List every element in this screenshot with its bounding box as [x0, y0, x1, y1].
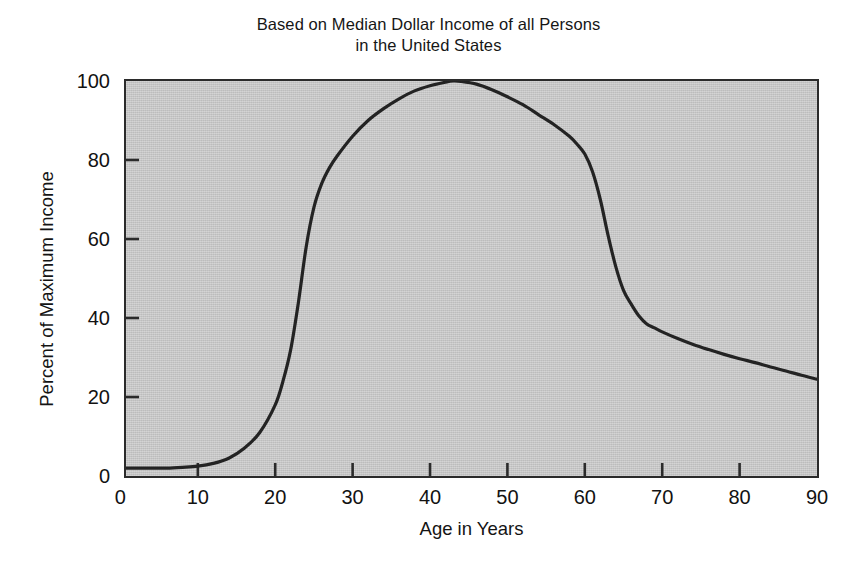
x-tick-label-50: 50: [477, 487, 537, 507]
axis-tick-marks: [126, 160, 740, 476]
plot-area: [124, 79, 819, 478]
x-tick-label-60: 60: [555, 487, 615, 507]
chart-figure: Based on Median Dollar Income of all Per…: [0, 0, 857, 563]
x-tick-label-90: 90: [787, 487, 847, 507]
chart-title: Based on Median Dollar Income of all Per…: [0, 14, 857, 56]
y-tick-label-20: 20: [50, 387, 110, 407]
y-tick-label-60: 60: [50, 229, 110, 249]
chart-title-line-1: Based on Median Dollar Income of all Per…: [0, 14, 857, 35]
y-tick-label-80: 80: [50, 150, 110, 170]
y-tick-label-40: 40: [50, 308, 110, 328]
y-tick-label-0: 0: [50, 466, 110, 486]
y-axis-title: Percent of Maximum Income: [36, 139, 58, 439]
x-tick-label-70: 70: [632, 487, 692, 507]
x-tick-label-30: 30: [323, 487, 383, 507]
plot-svg: [126, 81, 817, 476]
y-tick-label-100: 100: [50, 71, 110, 91]
x-axis-title: Age in Years: [124, 518, 819, 540]
income-curve: [126, 81, 817, 468]
x-tick-label-80: 80: [710, 487, 770, 507]
x-axis-tick-labels: 0102030405060708090: [0, 487, 857, 513]
x-tick-label-0: 0: [90, 487, 150, 507]
x-tick-label-10: 10: [168, 487, 228, 507]
chart-title-line-2: in the United States: [0, 35, 857, 56]
x-tick-label-20: 20: [245, 487, 305, 507]
x-tick-label-40: 40: [400, 487, 460, 507]
